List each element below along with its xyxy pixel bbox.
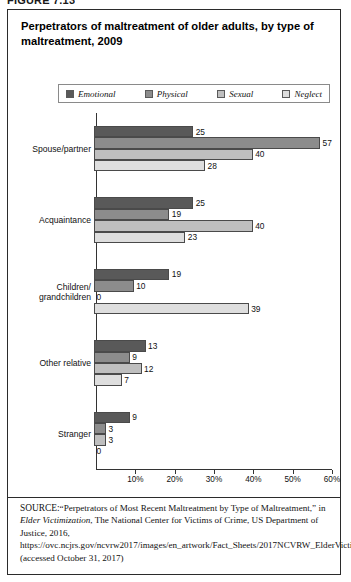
legend-item-physical: Physical <box>145 89 188 99</box>
bar-emotional <box>94 412 130 423</box>
bar-group: Spouse/partner25574028 <box>21 113 332 184</box>
bar-row: 3 <box>94 423 332 434</box>
axis-tick-label: 10% <box>127 475 143 484</box>
bar-value-label: 9 <box>132 412 137 422</box>
chart-legend: EmotionalPhysicalSexualNeglect <box>58 84 330 103</box>
bar-row: 9 <box>94 412 332 423</box>
bar-value-label: 9 <box>132 352 137 362</box>
bar-neglect <box>94 303 249 314</box>
legend-swatch-icon <box>282 90 290 98</box>
legend-label: Neglect <box>294 89 322 99</box>
bar-stack: 1910039 <box>94 256 332 327</box>
bar-value-label: 0 <box>97 446 102 456</box>
bar-value-label: 0 <box>97 292 102 302</box>
legend-item-neglect: Neglect <box>282 89 322 99</box>
axis-tick-label: 30% <box>206 475 222 484</box>
bar-group: Acquaintance25194023 <box>21 184 332 255</box>
bar-neglect <box>94 374 122 385</box>
figure-number-label: FIGURE 7.13 <box>7 0 75 4</box>
bar-value-label: 13 <box>148 341 157 351</box>
legend-label: Emotional <box>78 89 116 99</box>
bar-stack: 25574028 <box>94 113 332 184</box>
source-text-1: “Perpetrators of Most Recent Maltreatmen… <box>60 503 326 513</box>
category-label: Other relative <box>21 358 94 368</box>
bar-value-label: 57 <box>323 138 332 148</box>
axis-tick-label: 60% <box>324 475 340 484</box>
bar-physical <box>94 280 134 291</box>
bar-value-label: 28 <box>208 161 217 171</box>
axis-tick-label: 20% <box>166 475 182 484</box>
axis-tick <box>332 470 333 474</box>
bar-value-label: 19 <box>172 269 181 279</box>
axis-tick <box>214 470 215 474</box>
category-label: Stranger <box>21 429 94 439</box>
axis-tick <box>175 470 176 474</box>
bar-sexual <box>94 363 142 374</box>
bar-value-label: 7 <box>124 375 129 385</box>
bar-row: 57 <box>94 137 332 148</box>
chart-plot-area: Spouse/partner25574028Acquaintance251940… <box>21 113 332 485</box>
bar-row: 3 <box>94 434 332 445</box>
bar-stack: 9330 <box>94 399 332 470</box>
bar-row: 40 <box>94 220 332 231</box>
bar-row: 12 <box>94 363 332 374</box>
bar-emotional <box>94 340 146 351</box>
bar-row: 40 <box>94 149 332 160</box>
legend-item-sexual: Sexual <box>217 89 253 99</box>
category-label: Children/grandchildren <box>21 282 94 302</box>
bar-value-label: 25 <box>196 198 205 208</box>
bar-value-label: 40 <box>255 221 264 231</box>
bar-value-label: 12 <box>144 364 153 374</box>
legend-swatch-icon <box>145 90 153 98</box>
axis-tick <box>293 470 294 474</box>
bar-sexual <box>94 434 106 445</box>
bar-group: Stranger9330 <box>21 399 332 470</box>
bar-row: 9 <box>94 352 332 363</box>
bar-row: 23 <box>94 232 332 243</box>
bar-value-label: 25 <box>196 127 205 137</box>
source-divider <box>8 497 340 498</box>
bar-emotional <box>94 197 193 208</box>
bar-row: 39 <box>94 303 332 314</box>
bar-physical <box>94 352 130 363</box>
bar-emotional <box>94 269 169 280</box>
figure-title: Perpetrators of maltreatment of older ad… <box>21 19 321 49</box>
bar-row: 19 <box>94 269 332 280</box>
source-italic-title: Elder Victimization <box>20 515 90 525</box>
axis-tick <box>253 470 254 474</box>
bar-row: 25 <box>94 197 332 208</box>
bar-neglect <box>94 160 205 171</box>
bar-sexual <box>94 220 253 231</box>
bar-stack: 139127 <box>94 327 332 398</box>
bar-row: 25 <box>94 126 332 137</box>
bar-physical <box>94 423 106 434</box>
bar-group: Other relative139127 <box>21 327 332 398</box>
category-label: Acquaintance <box>21 215 94 225</box>
bar-group: Children/grandchildren1910039 <box>21 256 332 327</box>
bar-value-label: 10 <box>136 281 145 291</box>
legend-item-emotional: Emotional <box>66 89 116 99</box>
bar-physical <box>94 137 320 148</box>
figure-container: Perpetrators of maltreatment of older ad… <box>7 9 341 575</box>
legend-swatch-icon <box>66 90 74 98</box>
source-note: SOURCE:“Perpetrators of Most Recent Malt… <box>20 502 328 564</box>
bar-value-label: 3 <box>108 435 113 445</box>
bar-sexual <box>94 149 253 160</box>
bar-value-label: 23 <box>188 232 197 242</box>
legend-label: Sexual <box>229 89 253 99</box>
bar-value-label: 3 <box>108 424 113 434</box>
bar-row: 7 <box>94 374 332 385</box>
bar-neglect <box>94 232 185 243</box>
bar-emotional <box>94 126 193 137</box>
axis-tick-label: 40% <box>245 475 261 484</box>
bar-row: 0 <box>94 446 332 457</box>
bar-stack: 25194023 <box>94 184 332 255</box>
bar-row: 28 <box>94 160 332 171</box>
legend-swatch-icon <box>217 90 225 98</box>
bar-row: 10 <box>94 280 332 291</box>
legend-label: Physical <box>157 89 188 99</box>
bar-row: 0 <box>94 292 332 303</box>
x-axis: 10%20%30%40%50%60% <box>96 470 332 485</box>
bar-row: 13 <box>94 340 332 351</box>
bar-value-label: 19 <box>172 209 181 219</box>
